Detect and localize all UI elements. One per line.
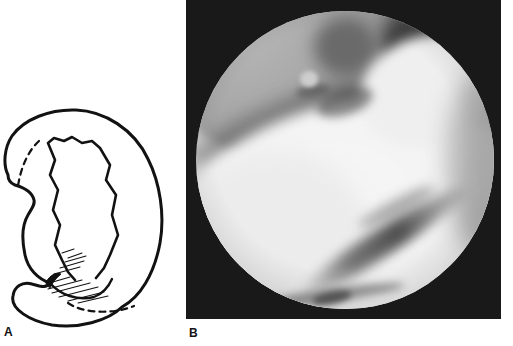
figure-canvas: A B xyxy=(0,0,513,346)
panel-a-drawing xyxy=(2,103,172,328)
meniscus-tear-diagram xyxy=(2,103,172,328)
arthroscope-viewport xyxy=(196,11,494,309)
viewport-vignette xyxy=(196,11,494,309)
arthroscopy-panel xyxy=(186,0,501,319)
panel-a-label: A xyxy=(4,326,13,338)
panel-b-label: B xyxy=(189,327,198,339)
